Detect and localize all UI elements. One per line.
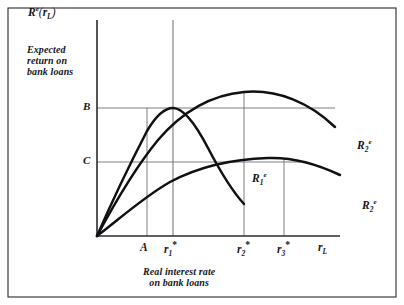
x-tick-r3-subscript: 3 <box>281 249 285 258</box>
curve-label-R1e-subscript: 1 <box>260 178 264 187</box>
x-tick-label-rL: rL <box>318 241 327 257</box>
curve-label-R1e: R1e <box>252 172 267 188</box>
x-tick-r1-subscript: 1 <box>168 249 172 258</box>
curve-label-R3e-superscript: e <box>373 198 376 206</box>
x-tick-label-A: A <box>140 241 148 254</box>
y-axis-title-close-paren: ) <box>52 6 56 18</box>
curve-label-R2e-base: R <box>357 139 365 151</box>
y-axis-caption-line-3: bank loans <box>27 66 73 77</box>
y-axis-caption: Expected return on bank loans <box>27 44 73 78</box>
x-axis-caption: Real interest rate on bank loans <box>143 266 215 288</box>
curve-label-R2e: R2e <box>357 139 372 155</box>
x-axis-caption-line-2: on bank loans <box>143 277 215 288</box>
x-tick-r2-star: * <box>245 240 250 250</box>
y-tick-label-C: C <box>83 154 90 166</box>
x-tick-label-r3: r3* <box>277 240 290 259</box>
curve-label-R3e-base: R <box>362 199 370 211</box>
figure-container: Re(rL) Expected return on bank loans B C… <box>0 0 404 305</box>
x-axis-caption-line-1: Real interest rate <box>143 266 215 277</box>
y-axis-caption-line-2: return on <box>27 55 73 66</box>
curve-label-R1e-base: R <box>252 172 260 184</box>
x-tick-rL-subscript: L <box>322 247 327 256</box>
x-tick-r3-star: * <box>285 240 290 250</box>
x-tick-r2-subscript: 2 <box>241 249 245 258</box>
x-tick-r1-star: * <box>172 240 177 250</box>
x-tick-label-r1: r1* <box>164 240 177 259</box>
x-tick-A-base: A <box>140 241 148 253</box>
x-tick-label-r2: r2* <box>237 240 250 259</box>
curve-label-R2e-superscript: e <box>368 138 371 146</box>
y-axis-title: Re(rL) <box>28 6 56 22</box>
y-tick-label-B: B <box>83 100 90 112</box>
y-axis-title-base: R <box>28 6 36 18</box>
curve-label-R1e-superscript: e <box>263 171 266 179</box>
y-axis-caption-line-1: Expected <box>27 44 73 55</box>
curve-label-R3e: R2e <box>362 199 377 215</box>
curve-label-R3e-subscript: 2 <box>370 205 374 214</box>
curve-label-R2e-subscript: 2 <box>365 145 369 154</box>
